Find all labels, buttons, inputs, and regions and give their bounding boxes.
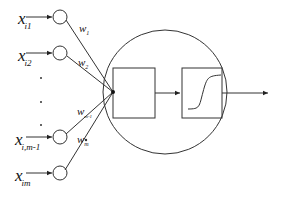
weight-subscript: m — [84, 141, 88, 147]
input-label-3: xi,m-1 — [15, 131, 41, 148]
input-subscript: i2 — [25, 58, 32, 68]
input-node-4 — [53, 166, 67, 180]
ellipsis-dot-1 — [40, 77, 42, 79]
neuron-diagram: xi1 xi2 xi,m-1 xim w1 w2 wm-1 wm — [0, 0, 284, 200]
input-label-1: xi1 — [18, 10, 33, 27]
input-subscript: im — [22, 178, 31, 188]
weight-line-1 — [66, 20, 113, 92]
input-label-4: xim — [15, 167, 32, 184]
input-node-2 — [53, 46, 67, 60]
weight-label-4: wm — [77, 130, 89, 146]
input-subscript: i,m-1 — [22, 142, 41, 152]
input-node-1 — [53, 10, 67, 24]
ellipsis-dot-3 — [40, 124, 42, 126]
neuron-body — [103, 30, 227, 154]
sigmoid-icon — [188, 75, 221, 109]
weight-label-3: wm-1 — [77, 102, 92, 118]
weight-label-2: w2 — [78, 53, 88, 69]
neuron-diagram-canvas — [0, 0, 284, 200]
input-node-3 — [53, 130, 67, 144]
weight-subscript: m-1 — [84, 114, 92, 119]
weight-subscript: 2 — [85, 64, 88, 70]
input-label-2: xi2 — [18, 47, 33, 64]
weight-subscript: 1 — [86, 30, 89, 36]
summation-block — [113, 68, 155, 118]
input-subscript: i1 — [25, 21, 32, 31]
ellipsis-dot-2 — [40, 101, 42, 103]
weight-label-1: w1 — [79, 19, 89, 35]
summation-junction-dot — [111, 90, 115, 94]
